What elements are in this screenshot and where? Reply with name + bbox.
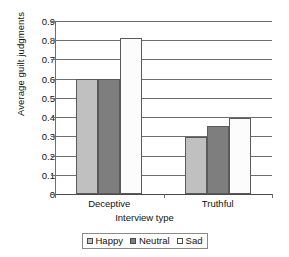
bar-happy-truthful [185,137,207,194]
chart-legend: HappyNeutralSad [82,233,208,249]
y-tick-label: 0 [9,189,55,200]
legend-swatch-sad [177,238,183,244]
legend-label: Neutral [139,235,170,246]
legend-item-neutral: Neutral [130,235,170,246]
y-tick-label: 0.9 [9,16,55,27]
y-tick-label: 0.2 [9,150,55,161]
y-tick-label: 0.4 [9,112,55,123]
legend-item-sad: Sad [177,235,203,246]
y-tick-label: 0.7 [9,54,55,65]
bar-neutral-deceptive [98,79,120,194]
bar-neutral-truthful [207,126,229,194]
bar-happy-deceptive [76,79,98,194]
x-group-label-deceptive: Deceptive [88,198,130,209]
x-group-label-truthful: Truthful [202,198,234,209]
legend-swatch-neutral [130,238,136,244]
y-tick-label: 0.1 [9,169,55,180]
plot-area [55,21,272,194]
x-tick-mark [272,194,273,198]
x-axis-title: Interview type [0,212,289,223]
y-tick-label: 0.6 [9,73,55,84]
y-tick-label: 0.3 [9,131,55,142]
legend-item-happy: Happy [87,235,123,246]
legend-label: Sad [186,235,203,246]
x-tick-mark [164,194,165,198]
legend-label: Happy [96,235,123,246]
bar-sad-truthful [229,118,251,194]
y-tick-label: 0.8 [9,35,55,46]
y-tick-label: 0.5 [9,92,55,103]
bar-chart: Average guilt judgments 00.10.20.30.40.5… [0,0,289,257]
x-tick-mark [55,194,56,198]
legend-swatch-happy [87,238,93,244]
bar-sad-deceptive [120,38,142,194]
bars-layer [55,21,272,194]
